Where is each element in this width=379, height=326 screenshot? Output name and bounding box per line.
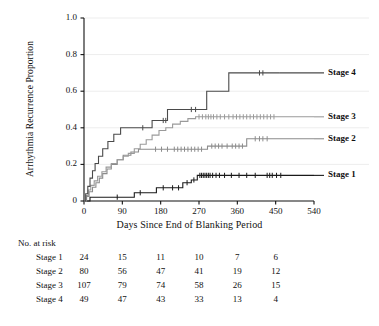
x-axis-label: Days Since End of Blanking Period: [0, 219, 379, 230]
risk-row-value: 41: [186, 266, 212, 276]
risk-row-value: 19: [224, 266, 250, 276]
risk-table-row: Stage 449474333134: [0, 294, 379, 308]
x-tick-label: 360: [222, 206, 252, 216]
legend-label-stage-4: Stage 4: [328, 67, 356, 77]
legend-label-stage-2: Stage 2: [328, 133, 356, 143]
x-tick-label: 270: [184, 206, 214, 216]
y-tick-label: 0.4: [51, 122, 77, 132]
series-line-stage-1: [84, 175, 314, 201]
y-tick-label: 1.0: [51, 12, 77, 22]
risk-row-value: 6: [263, 252, 289, 262]
risk-table-row: Stage 2805647411912: [0, 266, 379, 280]
risk-row-value: 11: [148, 252, 174, 262]
risk-row-value: 15: [263, 280, 289, 290]
risk-row-value: 12: [263, 266, 289, 276]
x-tick-label: 450: [261, 206, 291, 216]
kaplan-meier-figure: Arrhythmia Recurrence Proportion 00.20.4…: [0, 0, 379, 326]
x-tick-label: 180: [146, 206, 176, 216]
x-tick-label: 90: [107, 206, 137, 216]
x-tick-label: 0: [69, 206, 99, 216]
series-line-stage-2: [84, 139, 314, 201]
plot-area: Arrhythmia Recurrence Proportion 00.20.4…: [0, 0, 379, 215]
risk-row-value: 33: [186, 294, 212, 304]
x-tick-label: 540: [299, 206, 329, 216]
risk-table-row: Stage 12415111076: [0, 252, 379, 266]
y-tick-label: 0.8: [51, 49, 77, 59]
risk-row-value: 56: [109, 266, 135, 276]
risk-row-value: 107: [71, 280, 97, 290]
y-tick-label: 0.6: [51, 85, 77, 95]
risk-table-title: No. at risk: [18, 238, 56, 248]
risk-row-value: 47: [148, 266, 174, 276]
y-axis-label: Arrhythmia Recurrence Proportion: [25, 24, 35, 194]
risk-row-value: 74: [148, 280, 174, 290]
risk-table-row: Stage 31077974582615: [0, 280, 379, 294]
series-line-stage-4: [84, 73, 280, 201]
risk-row-value: 13: [224, 294, 250, 304]
risk-row-value: 49: [71, 294, 97, 304]
chart-svg: [0, 0, 379, 215]
legend-label-stage-1: Stage 1: [328, 169, 356, 179]
legend-label-stage-3: Stage 3: [328, 111, 356, 121]
risk-row-value: 80: [71, 266, 97, 276]
risk-row-value: 4: [263, 294, 289, 304]
risk-row-value: 15: [109, 252, 135, 262]
risk-row-value: 79: [109, 280, 135, 290]
y-tick-label: 0: [51, 195, 77, 205]
risk-row-label: Stage 3: [36, 280, 63, 290]
risk-row-label: Stage 2: [36, 266, 63, 276]
risk-row-label: Stage 1: [36, 252, 63, 262]
risk-row-value: 43: [148, 294, 174, 304]
risk-row-value: 47: [109, 294, 135, 304]
risk-row-label: Stage 4: [36, 294, 63, 304]
risk-row-value: 24: [71, 252, 97, 262]
risk-row-value: 7: [224, 252, 250, 262]
risk-row-value: 26: [224, 280, 250, 290]
risk-row-value: 58: [186, 280, 212, 290]
y-tick-label: 0.2: [51, 158, 77, 168]
series-line-stage-3: [84, 117, 314, 201]
risk-row-value: 10: [186, 252, 212, 262]
